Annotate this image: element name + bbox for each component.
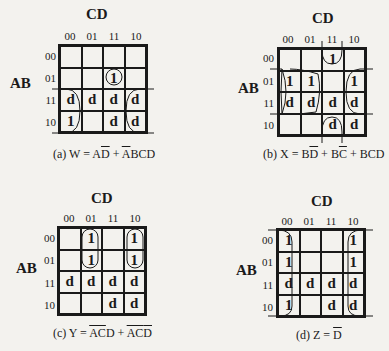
col-header: 10 — [125, 30, 147, 42]
cell — [300, 295, 322, 317]
cell — [300, 230, 322, 252]
cell: d — [321, 295, 343, 317]
cell: 1 — [344, 71, 366, 93]
cell: 1 — [103, 68, 125, 90]
cell — [82, 46, 104, 68]
cell — [279, 49, 301, 71]
cell — [300, 252, 322, 274]
cell — [279, 114, 301, 136]
col-header: 11 — [102, 212, 124, 224]
col-variable-label: CD — [86, 6, 108, 23]
row-header: 00 — [38, 50, 56, 62]
equation-caption: (b) X = BD + BC + BCD — [263, 147, 384, 162]
col-header: 00 — [277, 33, 299, 45]
cell — [322, 71, 344, 93]
cell: d — [321, 273, 343, 295]
cell: d — [125, 111, 147, 133]
cell: d — [300, 273, 322, 295]
col-header: 00 — [276, 215, 298, 227]
kmap-grid: 1 1 1 1 d d d d d d — [57, 226, 147, 316]
cell: d — [301, 92, 323, 114]
cell: d — [343, 295, 365, 317]
cell — [102, 250, 124, 272]
cell: d — [344, 92, 366, 114]
cell: d — [59, 271, 81, 293]
equation-caption: (c) Y = ACD + ACD — [53, 326, 152, 341]
row-header: 00 — [256, 52, 274, 64]
cell: d — [103, 89, 125, 111]
row-variable-label: AB — [16, 260, 37, 277]
cell — [59, 293, 81, 315]
row-header: 11 — [38, 94, 56, 106]
row-header: 10 — [38, 116, 56, 128]
cell — [82, 68, 104, 90]
cell — [125, 68, 147, 90]
cell: d — [322, 114, 344, 136]
cell: d — [279, 92, 301, 114]
col-header: 01 — [80, 212, 102, 224]
row-variable-label: AB — [236, 262, 257, 279]
cell — [81, 293, 103, 315]
cell: d — [124, 271, 146, 293]
cell — [103, 46, 125, 68]
row-header: 11 — [255, 279, 273, 291]
col-header: 10 — [343, 33, 365, 45]
row-variable-label: AB — [10, 75, 31, 92]
cell: d — [278, 273, 300, 295]
equation-caption: (a) W = AD + ABCD — [53, 147, 155, 162]
row-header: 01 — [255, 256, 273, 268]
cell: 1 — [278, 252, 300, 274]
cell: d — [82, 89, 104, 111]
cell: 1 — [124, 228, 146, 250]
col-header: 10 — [124, 212, 146, 224]
row-header: 01 — [37, 254, 55, 266]
cell — [60, 68, 82, 90]
col-header: 11 — [103, 30, 125, 42]
row-header: 10 — [255, 301, 273, 313]
cell: d — [103, 111, 125, 133]
col-header: 01 — [298, 215, 320, 227]
row-header: 10 — [256, 119, 274, 131]
col-header: 00 — [58, 212, 80, 224]
col-header: 11 — [320, 215, 342, 227]
cell — [59, 228, 81, 250]
col-header: 01 — [299, 33, 321, 45]
cell — [125, 46, 147, 68]
col-header: 11 — [321, 33, 343, 45]
cell: d — [322, 92, 344, 114]
cell — [102, 228, 124, 250]
cell — [59, 250, 81, 272]
row-header: 10 — [37, 299, 55, 311]
cell: d — [124, 293, 146, 315]
cell: 1 — [343, 230, 365, 252]
cell — [344, 49, 366, 71]
equation-caption: (d) Z = D — [296, 328, 342, 343]
cell: 1 — [278, 295, 300, 317]
kmap-grid: 1 1 1 1 d d d d d d — [277, 47, 367, 137]
row-header: 01 — [256, 75, 274, 87]
cell — [301, 49, 323, 71]
cell — [301, 114, 323, 136]
cell — [82, 111, 104, 133]
cell — [60, 46, 82, 68]
kmap-grid: 1 d d d d 1 d d — [58, 44, 148, 134]
cell: d — [125, 89, 147, 111]
cell: d — [60, 89, 82, 111]
cell: 1 — [322, 49, 344, 71]
row-header: 01 — [38, 72, 56, 84]
cell: 1 — [124, 250, 146, 272]
cell: 1 — [81, 228, 103, 250]
cell: 1 — [60, 111, 82, 133]
row-header: 11 — [256, 97, 274, 109]
cell: d — [102, 271, 124, 293]
col-variable-label: CD — [312, 10, 334, 27]
col-header: 00 — [59, 30, 81, 42]
row-header: 11 — [37, 277, 55, 289]
row-header: 00 — [37, 232, 55, 244]
cell: 1 — [343, 252, 365, 274]
cell: 1 — [278, 230, 300, 252]
cell: d — [81, 271, 103, 293]
cell — [321, 252, 343, 274]
cell: d — [344, 114, 366, 136]
cell: d — [343, 273, 365, 295]
